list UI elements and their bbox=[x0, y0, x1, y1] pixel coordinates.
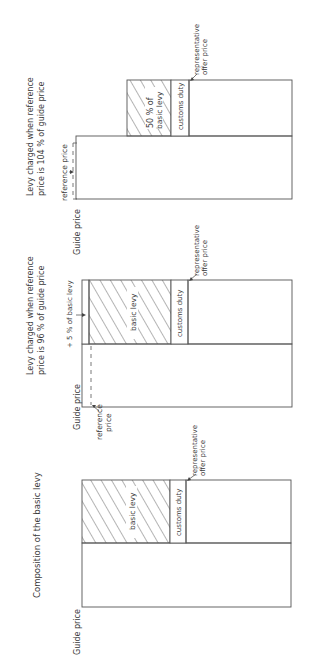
offer-price-label: offer price bbox=[201, 240, 209, 276]
offer-price-label: offer price bbox=[201, 39, 209, 75]
panel-title-line2: price is 104 % of guide price bbox=[37, 82, 46, 197]
plus-five-percent-label: + 5 % of basic levy bbox=[66, 280, 74, 348]
panel-title-line1: Levy charged when reference bbox=[26, 77, 35, 196]
fifty-percent-label: 50 % of bbox=[146, 97, 155, 128]
price-label: price bbox=[104, 413, 113, 432]
panel-reference-104: Levy charged when reference price is 104… bbox=[26, 24, 292, 255]
representative-label: representative bbox=[193, 24, 201, 75]
guide-price-label: Guide price bbox=[73, 384, 82, 430]
panel-title-line2: price is 96 % of guide price bbox=[37, 266, 46, 375]
plus-five-percent-segment bbox=[82, 280, 89, 344]
guide-price-label: Guide price bbox=[73, 609, 82, 655]
representative-label: representative bbox=[191, 425, 199, 476]
representative-label: representative bbox=[193, 225, 201, 276]
reference-price-label: reference price bbox=[60, 144, 69, 201]
guide-price-block bbox=[82, 543, 291, 607]
offer-price-segment bbox=[186, 480, 291, 543]
offer-price-label: offer price bbox=[199, 440, 207, 476]
basic-levy-label: basic levy bbox=[129, 293, 138, 331]
guide-price-label: Guide price bbox=[73, 209, 82, 255]
customs-duty-label: customs duty bbox=[175, 489, 183, 536]
panel-reference-96: Levy charged when reference price is 96 … bbox=[26, 225, 292, 440]
basic-levy-label: basic levy bbox=[128, 492, 137, 530]
customs-duty-label: customs duty bbox=[176, 290, 184, 337]
customs-duty-label: customs duty bbox=[177, 83, 185, 130]
guide-price-block bbox=[82, 344, 292, 407]
levy-diagram: Composition of the basic levy Guide pric… bbox=[0, 0, 309, 671]
basic-levy-label: basic levy bbox=[155, 91, 164, 129]
guide-price-block bbox=[76, 136, 292, 199]
panel-title: Composition of the basic levy bbox=[32, 472, 42, 598]
panel-title-line1: Levy charged when reference bbox=[26, 256, 35, 375]
offer-price-segment bbox=[188, 280, 292, 344]
offer-price-segment bbox=[189, 80, 292, 136]
panel-basic-levy: Composition of the basic levy Guide pric… bbox=[32, 425, 291, 655]
